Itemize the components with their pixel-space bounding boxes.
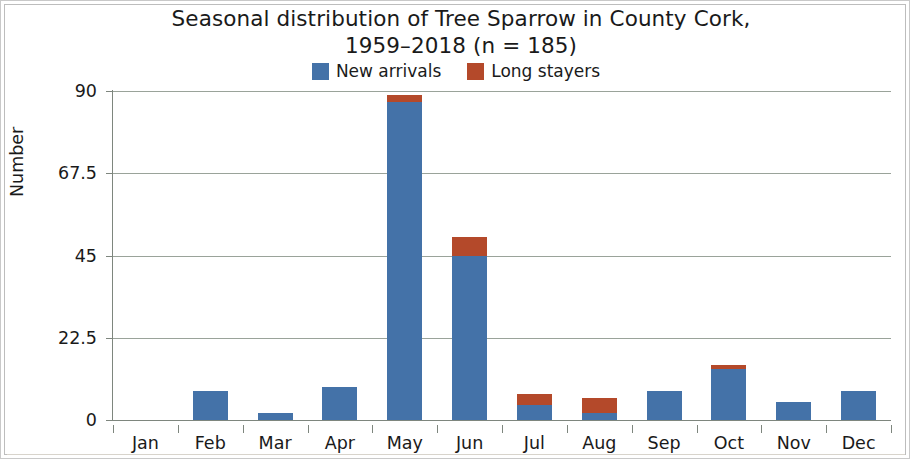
x-axis-tick-mark — [632, 425, 633, 433]
plot-area: 022.54567.590 — [113, 91, 891, 420]
x-axis-tick-mark — [891, 425, 892, 433]
x-axis-tick-label-dec: Dec — [842, 433, 876, 453]
chart-title-line-1: Seasonal distribution of Tree Sparrow in… — [172, 6, 751, 31]
x-axis-tick-mark — [826, 425, 827, 433]
x-axis-tick-label-apr: Apr — [325, 433, 355, 453]
gridline — [113, 91, 891, 92]
bar-segment-long-stayers — [452, 237, 487, 255]
x-axis-tick-label-jul: Jul — [524, 433, 545, 453]
y-axis-tick-label: 90 — [1, 81, 97, 101]
x-axis-tick-mark — [243, 425, 244, 433]
x-axis-tick-label-may: May — [387, 433, 423, 453]
y-axis-tick-label: 0 — [1, 410, 97, 430]
bar-oct — [711, 365, 746, 420]
x-axis-line — [113, 420, 891, 421]
x-axis-labels: JanFebMarAprMayJunJulAugSepOctNovDec — [113, 425, 891, 457]
legend-label-new-arrivals: New arrivals — [336, 61, 441, 81]
gridline — [113, 256, 891, 257]
bar-segment-long-stayers — [517, 394, 552, 405]
chart-title: Seasonal distribution of Tree Sparrow in… — [61, 5, 861, 59]
bar-segment-new-arrivals — [776, 402, 811, 420]
x-axis-tick-mark — [372, 425, 373, 433]
bar-jul — [517, 394, 552, 420]
bar-dec — [841, 391, 876, 420]
x-axis-tick-label-sep: Sep — [648, 433, 681, 453]
bar-aug — [582, 398, 617, 420]
legend-item-long-stayers: Long stayers — [467, 61, 600, 81]
bar-segment-new-arrivals — [711, 369, 746, 420]
legend-label-long-stayers: Long stayers — [491, 61, 600, 81]
gridline — [113, 173, 891, 174]
bar-segment-new-arrivals — [258, 413, 293, 420]
bar-nov — [776, 402, 811, 420]
bar-jun — [452, 237, 487, 420]
x-axis-tick-mark — [697, 425, 698, 433]
y-axis-tick-mark — [106, 256, 113, 257]
x-axis-tick-mark — [437, 425, 438, 433]
x-axis-tick-mark — [502, 425, 503, 433]
x-axis-tick-label-aug: Aug — [582, 433, 616, 453]
bar-segment-new-arrivals — [387, 102, 422, 420]
y-axis-tick-label: 45 — [1, 246, 97, 266]
bar-segment-long-stayers — [582, 398, 617, 413]
bar-sep — [647, 391, 682, 420]
bar-feb — [193, 391, 228, 420]
y-axis-tick-mark — [106, 338, 113, 339]
bottom-rule — [7, 454, 905, 455]
x-axis-tick-mark — [761, 425, 762, 433]
x-axis-tick-mark — [113, 425, 114, 433]
chart-container: Seasonal distribution of Tree Sparrow in… — [0, 0, 910, 459]
y-axis-tick-label: 22.5 — [1, 328, 97, 348]
x-axis-tick-label-nov: Nov — [777, 433, 811, 453]
x-axis-tick-label-oct: Oct — [714, 433, 744, 453]
y-axis-title: Number — [7, 127, 27, 197]
bar-segment-long-stayers — [387, 95, 422, 102]
gridline — [113, 338, 891, 339]
x-axis-tick-label-feb: Feb — [195, 433, 226, 453]
bar-segment-new-arrivals — [582, 413, 617, 420]
x-axis-tick-mark — [567, 425, 568, 433]
chart-legend: New arrivals Long stayers — [1, 61, 910, 81]
bar-segment-new-arrivals — [647, 391, 682, 420]
y-axis-tick-mark — [106, 420, 113, 421]
bar-mar — [258, 413, 293, 420]
legend-swatch-new-arrivals — [312, 63, 329, 80]
chart-title-line-2: 1959–2018 (n = 185) — [61, 32, 861, 59]
bar-segment-new-arrivals — [322, 387, 357, 420]
x-axis-tick-label-jan: Jan — [132, 433, 159, 453]
bar-segment-new-arrivals — [841, 391, 876, 420]
y-axis-tick-mark — [106, 91, 113, 92]
bar-segment-new-arrivals — [452, 256, 487, 421]
y-axis-tick-label: 67.5 — [1, 163, 97, 183]
bar-segment-new-arrivals — [193, 391, 228, 420]
bar-apr — [322, 387, 357, 420]
legend-swatch-long-stayers — [467, 63, 484, 80]
bar-may — [387, 95, 422, 420]
x-axis-tick-mark — [308, 425, 309, 433]
bar-segment-new-arrivals — [517, 405, 552, 420]
x-axis-tick-label-mar: Mar — [259, 433, 292, 453]
legend-item-new-arrivals: New arrivals — [312, 61, 441, 81]
x-axis-tick-mark — [178, 425, 179, 433]
y-axis-tick-mark — [106, 173, 113, 174]
x-axis-tick-label-jun: Jun — [456, 433, 483, 453]
